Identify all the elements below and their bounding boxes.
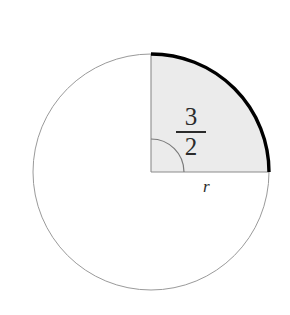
angle-numerator: 3 (176, 104, 206, 129)
angle-measure-label: 3 2 (176, 104, 206, 159)
angle-denominator: 2 (176, 134, 206, 159)
circle-sector-diagram (0, 0, 290, 315)
radius-label: r (203, 178, 210, 195)
geometry-figure: 3 2 r (0, 0, 290, 315)
